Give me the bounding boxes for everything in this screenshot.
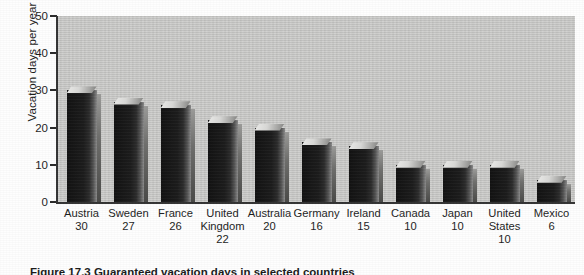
x-axis-label-country: Canada — [384, 207, 437, 220]
x-axis-label-value: 6 — [525, 220, 578, 233]
bar — [302, 142, 332, 202]
x-axis-label: United States10 — [478, 207, 531, 245]
y-tick-label: 40 — [22, 47, 48, 59]
x-axis-label: Canada10 — [384, 207, 437, 233]
x-axis-label-country: Australia — [243, 207, 296, 220]
bar — [67, 90, 97, 202]
x-axis-label: France26 — [149, 207, 202, 233]
bar-top-face — [537, 176, 567, 183]
bar — [490, 165, 520, 202]
bar-top-face — [302, 138, 332, 145]
bar-front-face — [443, 165, 473, 202]
x-axis-label: Austria30 — [55, 207, 108, 233]
bar-top-face — [349, 142, 379, 149]
bar-front-face — [67, 90, 97, 202]
bar — [396, 165, 426, 202]
x-axis-label-value: 10 — [478, 233, 531, 246]
x-axis-label: Australia20 — [243, 207, 296, 233]
x-axis-category-labels: Austria30Sweden27France26United Kingdom2… — [58, 207, 575, 267]
x-axis-label-value: 15 — [337, 220, 390, 233]
bar — [255, 128, 285, 202]
x-axis-label-country: Germany — [290, 207, 343, 220]
x-axis-label: Sweden27 — [102, 207, 155, 233]
bar — [208, 120, 238, 202]
x-axis-label-country: United Kingdom — [196, 207, 249, 233]
x-axis-label-value: 22 — [196, 233, 249, 246]
figure-container: Vacation days per year 01020304050 Austr… — [0, 0, 584, 275]
x-axis-label-value: 20 — [243, 220, 296, 233]
x-axis-label-country: Ireland — [337, 207, 390, 220]
x-axis-label: United Kingdom22 — [196, 207, 249, 245]
y-axis-tick-labels: 01020304050 — [18, 0, 48, 275]
bar-top-face — [396, 161, 426, 168]
bar-top-face — [255, 124, 285, 131]
x-axis-label-country: France — [149, 207, 202, 220]
y-tick-label: 20 — [22, 122, 48, 134]
x-axis-label: Germany16 — [290, 207, 343, 233]
bar-top-face — [208, 116, 238, 123]
bar — [537, 180, 567, 202]
plot-area — [58, 16, 575, 202]
x-axis-label-value: 27 — [102, 220, 155, 233]
bar-top-face — [67, 86, 97, 93]
figure-caption: Figure 17.3 Guaranteed vacation days in … — [30, 266, 570, 275]
bar-front-face — [208, 120, 238, 202]
bar-top-face — [114, 98, 144, 105]
bar — [349, 146, 379, 202]
bar-front-face — [349, 146, 379, 202]
x-axis-label-country: Mexico — [525, 207, 578, 220]
y-tick-label: 50 — [22, 10, 48, 22]
x-axis-label-country: Sweden — [102, 207, 155, 220]
bar-front-face — [114, 102, 144, 202]
x-axis-label: Mexico6 — [525, 207, 578, 233]
x-axis-label-country: United States — [478, 207, 531, 233]
bar-top-face — [443, 161, 473, 168]
bar-front-face — [490, 165, 520, 202]
x-axis-label-country: Japan — [431, 207, 484, 220]
y-tick-label: 0 — [22, 196, 48, 208]
y-tick-label: 10 — [22, 159, 48, 171]
x-axis-label-country: Austria — [55, 207, 108, 220]
x-axis-label-value: 26 — [149, 220, 202, 233]
bar-front-face — [537, 180, 567, 202]
bar-front-face — [396, 165, 426, 202]
bar-front-face — [161, 105, 191, 202]
x-axis-label-value: 10 — [431, 220, 484, 233]
x-axis-label-value: 30 — [55, 220, 108, 233]
bar — [114, 102, 144, 202]
x-axis-label-value: 16 — [290, 220, 343, 233]
bar-top-face — [490, 161, 520, 168]
x-axis-line — [56, 202, 575, 204]
bar — [161, 105, 191, 202]
bar — [443, 165, 473, 202]
y-tick-label: 30 — [22, 84, 48, 96]
bar-front-face — [302, 142, 332, 202]
x-axis-label: Japan10 — [431, 207, 484, 233]
bar-top-face — [161, 101, 191, 108]
x-axis-label-value: 10 — [384, 220, 437, 233]
x-axis-label: Ireland15 — [337, 207, 390, 233]
bar-front-face — [255, 128, 285, 202]
